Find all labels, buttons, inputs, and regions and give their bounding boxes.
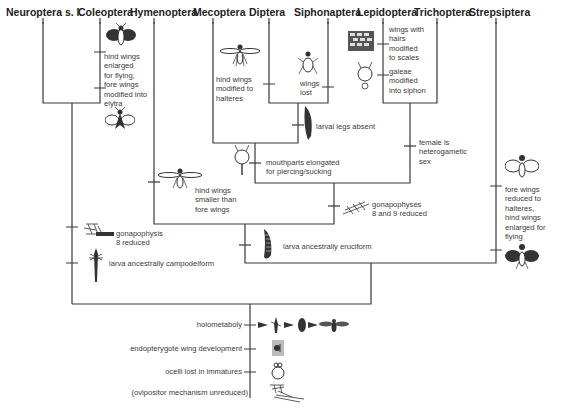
larva-head-ocelli-icon xyxy=(271,362,285,380)
strepsiptera-male-icon xyxy=(505,152,539,182)
label-lepidoptera-scales: wings withhairsmodifiedto scales xyxy=(389,25,424,63)
label-ovipositor: (ovipositor mechanism unreduced) xyxy=(132,388,249,397)
caterpillar-larva-icon xyxy=(261,229,273,259)
label-diptera-halteres: hind wingsmodified tohalteres xyxy=(216,75,253,103)
label-wing-development: endopterygote wing development xyxy=(130,344,242,353)
label-siphonaptera-wings: wingslost xyxy=(300,79,319,98)
beetle-elytra-icon xyxy=(105,107,135,133)
label-larva-campodeiform: larva ancestrally campodeiform xyxy=(109,259,214,268)
label-larva-eruciform: larva ancestrally eruciform xyxy=(283,242,372,251)
strepsiptera-dark-icon xyxy=(505,242,539,270)
maggot-larva-icon xyxy=(302,106,314,140)
label-lepidoptera-galeae: galeaemodifiedinto siphon xyxy=(389,67,426,95)
campodeiform-larva-icon xyxy=(88,248,104,284)
ovipositor-icon xyxy=(270,383,304,403)
label-strepsiptera-wings: fore wingsreduced tohalteres,hind wingse… xyxy=(505,185,546,241)
genitalia-89-icon xyxy=(343,200,369,216)
wing-scales-icon xyxy=(348,31,374,51)
moth-head-siphon-icon xyxy=(356,62,374,92)
branch-neuroptera-coleoptera xyxy=(43,22,100,103)
label-mouthparts: mouthparts elongatedfor piercing/sucking xyxy=(266,158,339,177)
label-gonapophyses-8-9: gonapophyses8 and 9 reduced xyxy=(372,200,427,219)
label-holometaboly: holometaboly xyxy=(197,320,242,329)
beetle-flying-icon xyxy=(106,23,136,49)
label-female-sex: female isheterogameticsex xyxy=(419,138,467,166)
label-larval-legs: larval legs absent xyxy=(316,122,375,131)
label-coleoptera-wings: hind wingsenlargedfor flying,fore wingsm… xyxy=(104,52,147,108)
label-ocelli: ocelli lost in immatures xyxy=(165,367,242,376)
label-gonapophysis-8: gonapophysis8 reduced xyxy=(116,229,163,248)
flea-icon xyxy=(297,50,319,76)
wing-development-icon xyxy=(272,340,284,356)
branch-holometabola xyxy=(72,263,371,304)
mosquito-head-icon xyxy=(233,145,251,175)
holometaboly-lifecycle-icon xyxy=(258,316,350,334)
wasp-icon xyxy=(158,166,202,192)
genitalia-8-icon xyxy=(84,222,114,238)
fly-icon xyxy=(220,42,260,68)
